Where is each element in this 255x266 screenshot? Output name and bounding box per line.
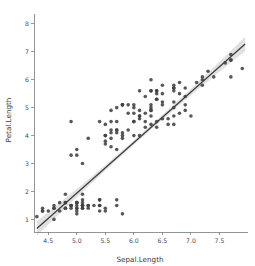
data-point: [98, 120, 102, 124]
x-axis-title: Sepal.Length: [116, 255, 163, 264]
data-point: [126, 128, 130, 132]
data-point: [178, 92, 182, 96]
data-point: [183, 109, 187, 113]
data-point: [201, 78, 205, 82]
x-tick-label: 5.5: [100, 237, 110, 244]
data-point: [98, 198, 102, 202]
data-point: [58, 201, 62, 205]
data-point: [98, 204, 102, 208]
data-point: [138, 89, 142, 93]
data-point: [149, 106, 153, 110]
data-point: [64, 206, 68, 210]
data-point: [172, 106, 176, 110]
data-point: [172, 100, 176, 104]
data-point: [126, 103, 130, 107]
data-point: [64, 201, 68, 205]
data-point: [138, 134, 142, 138]
data-point: [229, 53, 233, 57]
data-point: [46, 209, 50, 213]
data-point: [75, 206, 79, 210]
data-point: [64, 192, 68, 196]
data-point: [115, 120, 119, 124]
data-point: [115, 148, 119, 152]
data-point: [161, 83, 165, 87]
data-point: [121, 212, 125, 216]
x-tick-label: 6.5: [157, 237, 167, 244]
data-points-layer: [35, 53, 244, 221]
data-point: [121, 134, 125, 138]
x-tick-label: 7.0: [186, 237, 196, 244]
data-point: [86, 204, 90, 208]
data-point: [52, 206, 56, 210]
data-point: [240, 67, 244, 71]
data-point: [132, 111, 136, 115]
data-point: [109, 145, 113, 149]
data-point: [223, 61, 227, 65]
x-tick-label: 4.5: [43, 237, 53, 244]
data-point: [115, 204, 119, 208]
data-point: [161, 100, 165, 104]
data-point: [104, 134, 108, 138]
data-point: [75, 148, 79, 152]
x-tick-label: 6.0: [129, 237, 139, 244]
y-tick-label: 6: [25, 76, 29, 83]
data-point: [69, 153, 73, 157]
data-point: [132, 120, 136, 124]
data-point: [138, 109, 142, 113]
data-point: [178, 81, 182, 85]
y-tick-label: 2: [25, 188, 29, 195]
plot-canvas: 4.55.05.56.06.57.07.5 12345678 Sepal.Len…: [0, 0, 255, 266]
data-point: [143, 125, 147, 129]
data-point: [109, 120, 113, 124]
data-point: [149, 78, 153, 82]
y-tick-label: 3: [25, 160, 29, 167]
data-point: [81, 162, 85, 166]
data-point: [75, 153, 79, 157]
data-point: [86, 137, 90, 141]
data-point: [166, 117, 170, 121]
data-point: [206, 69, 210, 73]
data-point: [115, 106, 119, 110]
data-point: [115, 131, 119, 135]
data-point: [178, 111, 182, 115]
data-point: [183, 95, 187, 99]
data-point: [183, 86, 187, 90]
x-tick-label: 7.5: [215, 237, 225, 244]
data-point: [115, 198, 119, 202]
data-point: [121, 103, 125, 107]
data-point: [155, 92, 159, 96]
data-point: [69, 204, 73, 208]
data-point: [132, 106, 136, 110]
data-point: [104, 209, 108, 213]
data-point: [109, 128, 113, 132]
data-point: [143, 120, 147, 124]
data-point: [126, 111, 130, 115]
y-tick-label: 5: [25, 104, 29, 111]
data-point: [69, 120, 73, 124]
data-point: [229, 75, 233, 79]
data-point: [98, 209, 102, 213]
data-point: [35, 215, 39, 219]
data-point: [155, 97, 159, 101]
data-point: [138, 117, 142, 121]
data-point: [172, 114, 176, 118]
data-point: [149, 123, 153, 127]
y-axis-title: Petal.Length: [4, 98, 13, 143]
data-point: [132, 134, 136, 138]
data-point: [166, 123, 170, 127]
data-point: [229, 58, 233, 62]
data-point: [81, 201, 85, 205]
y-tick-label: 1: [25, 216, 29, 223]
data-point: [109, 137, 113, 141]
data-point: [143, 95, 147, 99]
data-point: [172, 86, 176, 90]
data-point: [155, 125, 159, 129]
data-point: [161, 117, 165, 121]
data-point: [104, 142, 108, 146]
data-point: [212, 75, 216, 79]
y-axis-ticks: 12345678: [25, 20, 34, 223]
data-point: [81, 192, 85, 196]
data-point: [58, 209, 62, 213]
y-tick-label: 8: [25, 20, 29, 27]
data-point: [52, 218, 56, 222]
